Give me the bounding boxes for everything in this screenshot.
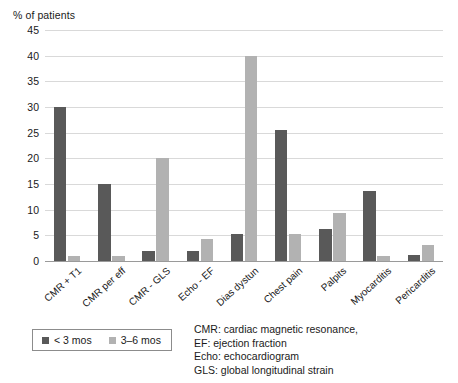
- legend-item: 3–6 mos: [109, 334, 161, 346]
- footnote-line: EF: ejection fraction: [194, 337, 358, 351]
- x-axis-tick-label: Pericarditis: [393, 265, 437, 306]
- bar: [98, 184, 111, 261]
- x-axis-tick-label: Dias dystun: [214, 265, 260, 308]
- bar: [201, 239, 214, 261]
- bar: [142, 251, 155, 261]
- bar-group: [355, 30, 399, 261]
- plot-area: 051015202530354045: [45, 30, 443, 261]
- bar: [112, 256, 125, 261]
- axis-baseline: [45, 261, 443, 262]
- bar: [187, 251, 200, 261]
- x-axis-tick-label: Echo - EF: [176, 265, 216, 303]
- x-axis-label-3: CMR - GLS: [126, 265, 172, 308]
- bar: [275, 130, 288, 261]
- x-axis-label-7: Palpits: [319, 265, 349, 293]
- abbreviation-footnote: CMR: cardiac magnetic resonance,EF: ejec…: [194, 323, 358, 377]
- x-axis-tick-label: Myocarditis: [348, 265, 393, 307]
- legend-label: 3–6 mos: [121, 334, 161, 346]
- y-axis-tick-label: 30: [0, 101, 39, 113]
- x-axis-label-4: Echo - EF: [176, 265, 216, 303]
- bar: [54, 107, 67, 261]
- legend-item: < 3 mos: [42, 334, 92, 346]
- y-axis-title: % of patients: [13, 9, 75, 21]
- chart-legend: < 3 mos3–6 mos: [32, 329, 172, 351]
- bar-group: [45, 30, 89, 261]
- legend-swatch-icon: [109, 337, 116, 344]
- x-axis-tick-label: Chest pain: [262, 265, 305, 305]
- bar-chart-figure: % of patients 051015202530354045 CMR + T…: [0, 0, 458, 383]
- bar: [68, 256, 81, 261]
- x-axis-tick-label: CMR per eff: [80, 265, 127, 309]
- y-axis-tick-label: 15: [0, 178, 39, 190]
- bar: [231, 234, 244, 261]
- x-axis-tick-label: CMR + T1: [42, 265, 83, 304]
- footnote-line: CMR: cardiac magnetic resonance,: [194, 323, 358, 337]
- x-axis-tick-label: CMR - GLS: [126, 265, 172, 308]
- x-axis-label-8: Myocarditis: [348, 265, 393, 307]
- x-axis-label-9: Pericarditis: [393, 265, 437, 306]
- y-axis-tick-label: 35: [0, 75, 39, 87]
- x-axis-tick-label: Palpits: [319, 265, 349, 293]
- x-axis-label-6: Chest pain: [262, 265, 305, 305]
- bar: [245, 56, 258, 261]
- x-axis-label-1: CMR + T1: [42, 265, 83, 304]
- bar-group: [310, 30, 354, 261]
- y-axis-tick-label: 10: [0, 204, 39, 216]
- bar: [319, 229, 332, 261]
- x-axis-label-2: CMR per eff: [80, 265, 127, 309]
- footnote-line: GLS: global longitudinal strain: [194, 364, 358, 378]
- bar: [422, 245, 435, 261]
- bar: [408, 255, 421, 261]
- y-axis-tick-label: 25: [0, 127, 39, 139]
- bar: [363, 191, 376, 261]
- bar-group: [133, 30, 177, 261]
- y-axis-tick-label: 20: [0, 152, 39, 164]
- footnote-line: Echo: echocardiogram: [194, 350, 358, 364]
- legend-label: < 3 mos: [54, 334, 92, 346]
- bar: [289, 234, 302, 261]
- bar: [377, 256, 390, 261]
- bar: [333, 213, 346, 261]
- bar-group: [89, 30, 133, 261]
- bar-group: [266, 30, 310, 261]
- y-axis-tick-label: 45: [0, 24, 39, 36]
- bar-group: [222, 30, 266, 261]
- bar-group: [178, 30, 222, 261]
- y-axis-tick-label: 5: [0, 229, 39, 241]
- bar-group: [399, 30, 443, 261]
- x-axis-label-5: Dias dystun: [214, 265, 260, 308]
- bar: [156, 158, 169, 261]
- legend-swatch-icon: [42, 337, 49, 344]
- y-axis-tick-label: 40: [0, 50, 39, 62]
- y-axis-tick-label: 0: [0, 255, 39, 267]
